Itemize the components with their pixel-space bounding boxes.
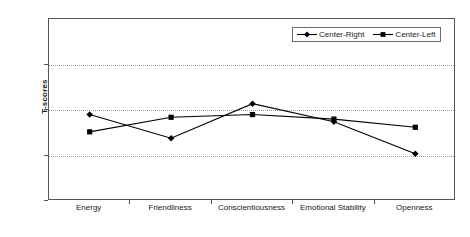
y-axis-tick-mark bbox=[44, 200, 48, 201]
y-axis-tick-mark bbox=[44, 155, 48, 156]
x-axis-tick-label: Energy bbox=[76, 203, 101, 212]
x-axis-tick-mark bbox=[374, 200, 375, 204]
chart-figure: T-scores 4045505560 EnergyFriendlinessCo… bbox=[0, 0, 470, 237]
square-marker-icon bbox=[169, 115, 174, 120]
series-layer bbox=[49, 19, 456, 201]
square-marker-icon bbox=[87, 129, 92, 134]
series-center-right bbox=[86, 100, 418, 157]
diamond-marker-icon bbox=[86, 111, 93, 118]
x-axis-tick-label: Openness bbox=[396, 203, 432, 212]
x-axis-tick-label: Friendliness bbox=[149, 203, 192, 212]
x-axis-tick-mark bbox=[211, 200, 212, 204]
diamond-marker-icon bbox=[304, 32, 310, 38]
legend-item: Center-Left bbox=[373, 30, 435, 39]
legend-label: Center-Left bbox=[395, 30, 435, 39]
diamond-marker-icon bbox=[412, 150, 419, 157]
x-axis-tick-label: Emotional Stability bbox=[300, 203, 366, 212]
x-axis-tick-mark bbox=[129, 200, 130, 204]
series-center-left bbox=[87, 112, 418, 134]
diamond-marker-icon bbox=[168, 135, 175, 142]
y-axis-tick-mark bbox=[44, 64, 48, 65]
square-marker-icon bbox=[381, 32, 386, 37]
square-marker-icon bbox=[250, 112, 255, 117]
x-axis-tick-mark bbox=[292, 200, 293, 204]
legend-label: Center-Right bbox=[319, 30, 364, 39]
square-marker-icon bbox=[331, 117, 336, 122]
x-axis-tick-label: Conscientiousness bbox=[218, 203, 285, 212]
legend-item: Center-Right bbox=[297, 30, 364, 39]
legend-marker bbox=[373, 30, 393, 39]
diamond-marker-icon bbox=[249, 100, 256, 107]
legend-marker bbox=[297, 30, 317, 39]
series-line bbox=[90, 104, 416, 154]
plot-area: Center-RightCenter-Left bbox=[48, 18, 455, 200]
y-axis-tick-mark bbox=[44, 109, 48, 110]
square-marker-icon bbox=[413, 125, 418, 130]
chart-legend: Center-RightCenter-Left bbox=[292, 27, 441, 42]
